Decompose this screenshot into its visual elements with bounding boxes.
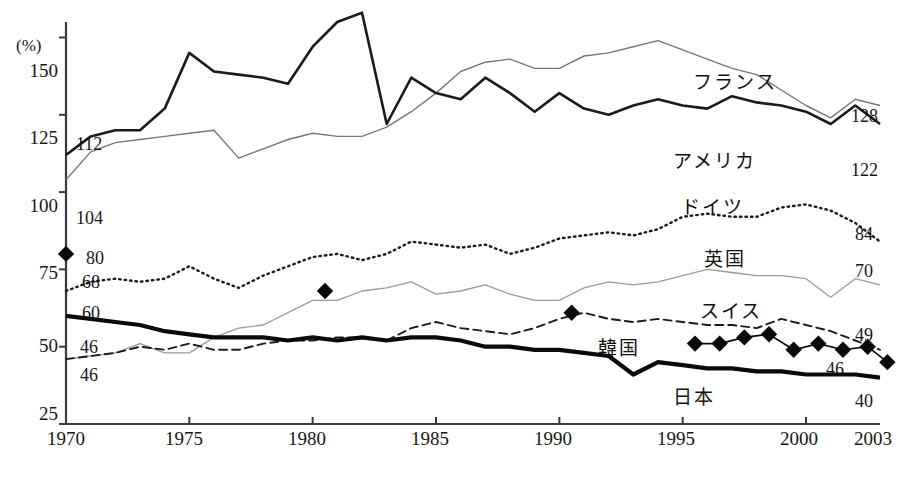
- korea-diamond-marker: [58, 246, 74, 262]
- y-tick-label-25: 25: [8, 403, 58, 425]
- series-label-germany: ドイツ: [681, 192, 744, 219]
- korea-diamond-marker: [563, 304, 579, 320]
- series-label-france: フランス: [693, 67, 777, 94]
- y-tick-label-150: 150: [8, 60, 58, 82]
- right-annotation-uk-70: 70: [855, 261, 873, 282]
- left-annotation-uk-46: 46: [80, 337, 98, 358]
- right-annotation-germany-84: 84: [855, 224, 873, 245]
- right-annotation-france-128: 128: [851, 106, 878, 127]
- chart-container: (%) 150 125 100 75 50 25 1970 1975 1980 …: [0, 0, 901, 480]
- y-tick-label-100: 100: [8, 195, 58, 217]
- korea-diamond-marker: [711, 335, 727, 351]
- series-path-japan: [66, 316, 880, 378]
- left-annotation-france-104: 104: [76, 208, 103, 229]
- korea-diamond-marker: [317, 283, 333, 299]
- right-annotation-japan-40: 40: [855, 391, 873, 412]
- left-annotation-germany-68: 68: [82, 272, 100, 293]
- y-tick-label-50: 50: [8, 335, 58, 357]
- series-label-japan: 日本: [673, 382, 715, 409]
- korea-diamond-marker: [736, 329, 752, 345]
- series-label-korea: 韓国: [598, 333, 640, 360]
- left-annotation-korea-80: 80: [86, 248, 104, 269]
- x-tick-label-1995: 1995: [641, 428, 711, 450]
- korea-diamond-marker: [879, 354, 895, 370]
- left-annotation-japan-60: 60: [82, 303, 100, 324]
- series-path-france: [66, 41, 880, 180]
- y-tick-label-75: 75: [8, 262, 58, 284]
- y-tick-label-125: 125: [8, 127, 58, 149]
- x-tick-label-1975: 1975: [149, 428, 219, 450]
- x-tick-label-1990: 1990: [518, 428, 588, 450]
- series-label-usa: アメリカ: [673, 146, 756, 173]
- x-tick-label-2003: 2003: [838, 428, 901, 450]
- korea-marker-layer: [58, 246, 896, 371]
- korea-diamond-marker: [785, 342, 801, 358]
- left-annotation-usa-112: 112: [76, 134, 102, 155]
- korea-diamond-marker: [687, 335, 703, 351]
- right-annotation-switzerland-49: 49: [855, 325, 873, 346]
- korea-diamond-marker: [835, 342, 851, 358]
- series-path-germany: [66, 204, 880, 291]
- y-axis-unit-label: (%): [16, 36, 41, 56]
- x-tick-label-1985: 1985: [395, 428, 465, 450]
- series-label-switzerland: スイス: [700, 296, 762, 323]
- x-tick-label-2000: 2000: [764, 428, 834, 450]
- korea-diamond-marker: [761, 326, 777, 342]
- right-annotation-korea-46: 46: [826, 359, 844, 380]
- right-annotation-usa-122: 122: [851, 160, 878, 181]
- series-label-uk: 英国: [704, 244, 746, 271]
- x-tick-label-1970: 1970: [31, 428, 101, 450]
- korea-diamond-marker: [810, 335, 826, 351]
- x-tick-label-1980: 1980: [272, 428, 342, 450]
- left-annotation-switzerland-46: 46: [80, 365, 98, 386]
